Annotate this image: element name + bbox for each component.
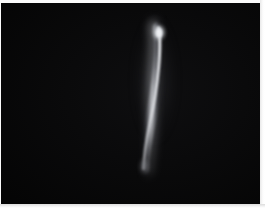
frame-edge-right: [260, 0, 265, 208]
streak-halo: [125, 11, 183, 183]
frame-edge-bottom: [0, 204, 265, 208]
light-streak-graphic: [1, 3, 260, 204]
photo-field: [1, 3, 260, 204]
image-canvas: Bright vertical streak on black backgrou…: [0, 0, 265, 208]
streak-layer: [1, 3, 260, 204]
background-vignette: [1, 3, 260, 204]
